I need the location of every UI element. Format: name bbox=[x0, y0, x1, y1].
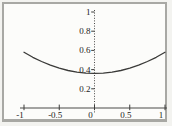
y-tick-label: 1 bbox=[86, 7, 91, 17]
x-tick-label: -1 bbox=[16, 110, 24, 120]
figure: -1-0.500.510.20.40.60.81 bbox=[0, 0, 172, 126]
plot-canvas: -1-0.500.510.20.40.60.81 bbox=[0, 0, 172, 126]
x-tick-label: 0.5 bbox=[120, 110, 132, 120]
x-tick-label: 0 bbox=[88, 110, 93, 120]
y-tick-label: 0.2 bbox=[79, 84, 90, 94]
y-tick-label: 0.8 bbox=[79, 26, 91, 36]
y-tick-label: 0.6 bbox=[79, 45, 91, 55]
x-tick-label: 1 bbox=[159, 110, 164, 120]
x-tick-label: -0.5 bbox=[48, 110, 63, 120]
